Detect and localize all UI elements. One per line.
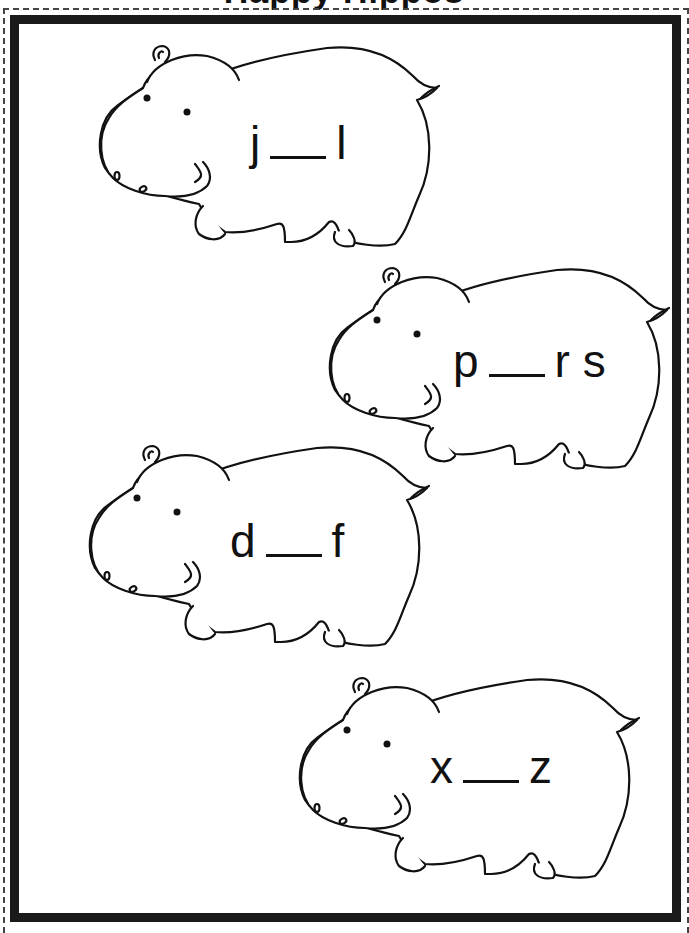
missing-letter-word: pr s	[453, 334, 653, 386]
letter-before: p	[453, 336, 479, 386]
letter-after: r s	[555, 336, 606, 386]
worksheet-title: Happy Hippos	[0, 0, 688, 8]
hippo-card: xz	[295, 668, 655, 908]
hippo-card: df	[85, 436, 445, 676]
missing-letter-blank[interactable]	[270, 116, 326, 159]
missing-letter-blank[interactable]	[266, 514, 322, 557]
missing-letter-word: xz	[430, 740, 630, 792]
missing-letter-blank[interactable]	[489, 334, 545, 377]
letter-after: z	[529, 742, 552, 792]
missing-letter-blank[interactable]	[463, 740, 519, 783]
letter-after: l	[336, 118, 346, 168]
missing-letter-word: jl	[250, 116, 450, 168]
letter-before: d	[230, 516, 256, 566]
letter-before: j	[250, 118, 260, 168]
letter-after: f	[332, 516, 345, 566]
letter-before: x	[430, 742, 453, 792]
hippo-card: jl	[95, 36, 455, 276]
missing-letter-word: df	[230, 514, 430, 566]
